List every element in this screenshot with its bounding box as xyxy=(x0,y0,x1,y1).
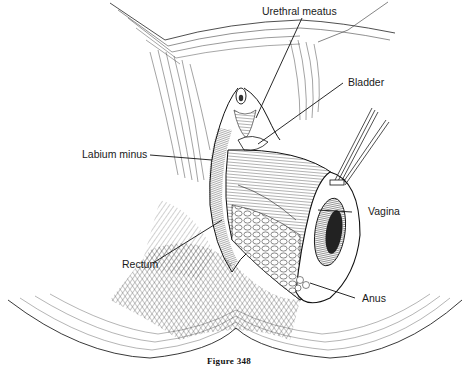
figure-caption: Figure 348 xyxy=(207,356,251,366)
label-anus: Anus xyxy=(362,293,386,304)
label-urethral-meatus: Urethral meatus xyxy=(262,6,337,17)
label-bladder: Bladder xyxy=(348,77,384,88)
anatomical-illustration: Urethral meatus Bladder Labium minus Vag… xyxy=(0,0,468,368)
label-rectum: Rectum xyxy=(122,259,158,270)
label-labium-minus: Labium minus xyxy=(82,149,147,160)
forceps xyxy=(330,108,389,185)
upper-contours xyxy=(110,3,395,64)
label-vagina: Vagina xyxy=(368,206,400,217)
illustration-artwork xyxy=(0,0,468,368)
